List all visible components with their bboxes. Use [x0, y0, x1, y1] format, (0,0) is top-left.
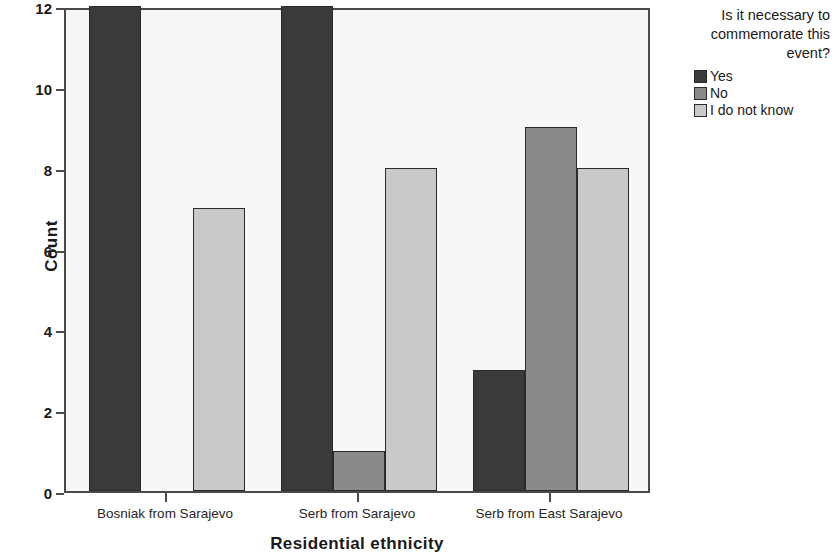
legend-swatch-icon — [694, 87, 707, 100]
y-tick-mark — [56, 251, 64, 253]
y-tick-mark — [56, 170, 64, 172]
y-tick-label: 10 — [12, 80, 52, 97]
x-tick-mark — [357, 493, 359, 502]
bar-serb-from-sarajevo-no — [333, 451, 385, 491]
legend-item: Yes — [668, 68, 830, 84]
x-tick-mark — [165, 493, 167, 502]
legend-item: I do not know — [668, 102, 830, 118]
y-tick-mark — [56, 89, 64, 91]
y-tick-mark — [56, 8, 64, 10]
legend: Is it necessary to commemorate this even… — [668, 6, 830, 119]
legend-item: No — [668, 85, 830, 101]
legend-title: Is it necessary to commemorate this even… — [668, 6, 830, 63]
plot-area — [64, 8, 650, 493]
legend-swatch-icon — [694, 104, 707, 117]
x-axis-title: Residential ethnicity — [64, 534, 650, 554]
bars-container — [66, 10, 648, 491]
bar-serb-from-sarajevo-yes — [281, 6, 333, 491]
bar-bosniak-from-sarajevo-yes — [89, 6, 141, 491]
bar-serb-from-sarajevo-i-do-not-know — [385, 168, 437, 491]
bar-bosniak-from-sarajevo-i-do-not-know — [193, 208, 245, 491]
bar-serb-from-east-sarajevo-no — [525, 127, 577, 491]
y-tick-label: 6 — [12, 242, 52, 259]
y-tick-label: 12 — [12, 0, 52, 17]
x-tick-mark — [549, 493, 551, 502]
x-tick-label: Serb from East Sarajevo — [475, 506, 622, 521]
legend-item-label: No — [710, 85, 728, 101]
y-tick-label: 8 — [12, 161, 52, 178]
y-tick-mark — [56, 331, 64, 333]
bar-serb-from-east-sarajevo-yes — [473, 370, 525, 491]
y-tick-label: 0 — [12, 485, 52, 502]
legend-swatch-icon — [694, 70, 707, 83]
y-tick-mark — [56, 412, 64, 414]
y-tick-label: 2 — [12, 404, 52, 421]
y-tick-mark — [56, 493, 64, 495]
y-tick-label: 4 — [12, 323, 52, 340]
x-tick-label: Bosniak from Sarajevo — [97, 506, 233, 521]
bar-chart-figure: Count 024681012 Bosniak from SarajevoSer… — [0, 0, 835, 560]
legend-item-label: Yes — [710, 68, 733, 84]
x-tick-label: Serb from Sarajevo — [299, 506, 415, 521]
bar-serb-from-east-sarajevo-i-do-not-know — [577, 168, 629, 491]
legend-items: YesNoI do not know — [668, 68, 830, 118]
legend-item-label: I do not know — [710, 102, 793, 118]
